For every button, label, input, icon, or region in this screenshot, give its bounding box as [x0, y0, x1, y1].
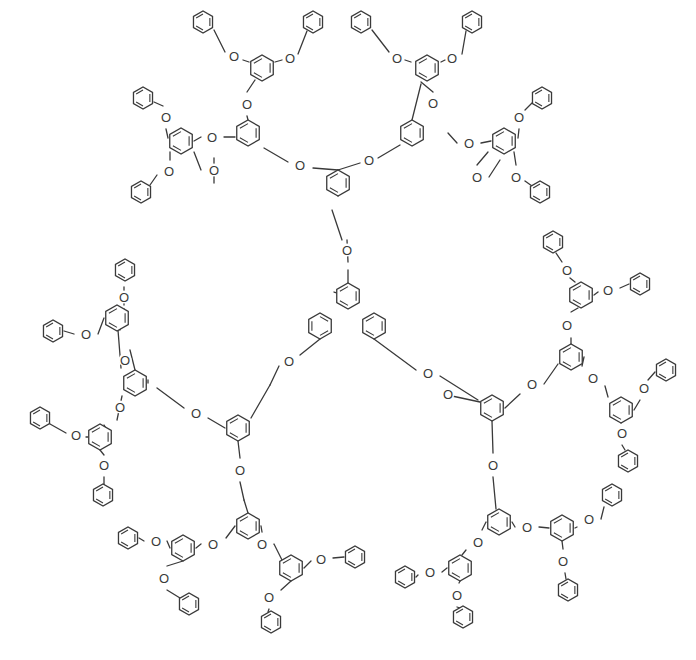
- benzene-ring-icon: [237, 120, 260, 146]
- benzene-ring-icon: [89, 424, 112, 450]
- benzene-ring-icon: [488, 509, 511, 535]
- svg-text:O: O: [639, 381, 649, 396]
- benzene-ring-icon: [118, 527, 137, 549]
- oxygen-atom-label: O: [616, 426, 629, 441]
- bond-line: [374, 339, 416, 370]
- svg-text:O: O: [472, 170, 482, 185]
- svg-text:O: O: [115, 400, 125, 415]
- benzene-ring-icon: [449, 555, 472, 581]
- oxygen-atom-label: O: [241, 97, 254, 112]
- benzene-ring-layer: [30, 11, 675, 633]
- benzene-ring-icon: [345, 546, 364, 568]
- oxygen-atom-label: O: [283, 354, 296, 369]
- bond-line: [194, 152, 201, 170]
- svg-text:O: O: [209, 163, 219, 178]
- svg-text:O: O: [151, 534, 161, 549]
- bond-line: [264, 148, 288, 162]
- oxygen-atom-label: O: [602, 283, 615, 298]
- bond-line: [514, 152, 516, 165]
- svg-text:O: O: [119, 290, 129, 305]
- oxygen-atom-label: O: [363, 153, 376, 168]
- benzene-ring-icon: [618, 450, 637, 472]
- benzene-ring-icon: [570, 282, 593, 308]
- svg-text:O: O: [473, 535, 483, 550]
- bond-line: [556, 253, 562, 262]
- benzene-ring-icon: [656, 359, 675, 381]
- oxygen-atom-label: O: [463, 136, 476, 151]
- bond-line: [240, 482, 244, 500]
- benzene-ring-icon: [558, 579, 577, 601]
- bond-line: [605, 386, 608, 397]
- svg-text:O: O: [99, 458, 109, 473]
- oxygen-atom-label: O: [315, 552, 328, 567]
- bond-line: [98, 318, 104, 334]
- oxygen-atom-label: O: [583, 512, 596, 527]
- benzene-ring-icon: [560, 344, 583, 370]
- bond-line: [275, 60, 282, 62]
- oxygen-atom-label: O: [284, 51, 297, 66]
- svg-text:O: O: [159, 571, 169, 586]
- oxygen-atom-label: O: [427, 96, 440, 111]
- bond-line: [441, 60, 445, 62]
- svg-text:O: O: [285, 51, 295, 66]
- oxygen-atom-label: O: [256, 537, 269, 552]
- benzene-ring-icon: [170, 128, 193, 154]
- oxygen-atom-label: O: [513, 110, 526, 125]
- benzene-ring-icon: [124, 370, 147, 396]
- svg-text:O: O: [81, 327, 91, 342]
- bond-line: [194, 137, 201, 141]
- bond-line: [570, 278, 575, 282]
- bond-line: [525, 181, 532, 186]
- oxygen-atom-label: O: [228, 49, 241, 64]
- svg-text:O: O: [584, 512, 594, 527]
- benzene-ring-icon: [481, 395, 504, 421]
- bond-line: [481, 141, 491, 143]
- benzene-ring-icon: [106, 305, 129, 331]
- bond-line: [421, 82, 433, 92]
- bond-line: [518, 129, 519, 138]
- benzene-ring-icon: [453, 606, 472, 628]
- oxygen-atom-label: O: [208, 163, 221, 178]
- svg-text:O: O: [120, 353, 130, 368]
- bond-line: [157, 388, 184, 408]
- bond-line: [251, 385, 270, 418]
- benzene-ring-icon: [227, 415, 250, 441]
- svg-text:O: O: [617, 426, 627, 441]
- bond-line: [333, 557, 344, 558]
- bond-line: [313, 168, 338, 170]
- benzene-ring-icon: [133, 87, 152, 109]
- oxygen-atom-label: O: [158, 571, 171, 586]
- benzene-ring-icon: [327, 170, 350, 196]
- svg-text:O: O: [342, 243, 352, 258]
- oxygen-atom-label: O: [451, 588, 464, 603]
- oxygen-atom-label: O: [442, 387, 455, 402]
- svg-text:O: O: [452, 588, 462, 603]
- benzene-ring-icon: [251, 55, 274, 81]
- oxygen-atom-label: O: [294, 158, 307, 173]
- oxygen-atom-label: O: [160, 110, 173, 125]
- svg-text:O: O: [207, 130, 217, 145]
- bond-line: [405, 60, 411, 62]
- bond-line: [512, 522, 515, 527]
- oxygen-atom-label: O: [526, 377, 539, 392]
- oxygen-atom-label: O: [561, 318, 574, 333]
- benzene-ring-icon: [309, 313, 332, 339]
- svg-text:O: O: [425, 565, 435, 580]
- benzene-ring-icon: [131, 181, 150, 203]
- oxygen-atom-label: O: [118, 290, 131, 305]
- bond-line: [261, 526, 262, 532]
- benzene-ring-icon: [416, 55, 439, 81]
- benzene-ring-icon: [115, 259, 134, 281]
- svg-text:O: O: [447, 51, 457, 66]
- bond-line: [539, 527, 549, 528]
- svg-text:O: O: [588, 371, 598, 386]
- svg-text:O: O: [161, 110, 171, 125]
- bond-line: [167, 590, 180, 598]
- svg-text:O: O: [511, 170, 521, 185]
- bond-line: [482, 522, 486, 530]
- bond-line: [525, 103, 532, 110]
- benzene-ring-icon: [351, 11, 370, 33]
- svg-text:O: O: [191, 406, 201, 421]
- benzene-ring-icon: [280, 555, 303, 581]
- svg-text:O: O: [284, 354, 294, 369]
